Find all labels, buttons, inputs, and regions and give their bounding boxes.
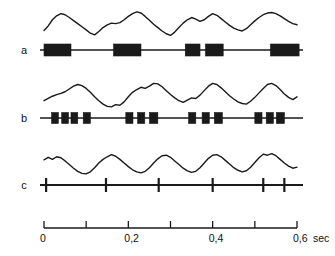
- event-burst-bar: [114, 44, 141, 56]
- axis-tick-label: 0,2: [124, 232, 139, 244]
- axis-tick-label: 0,6: [293, 232, 308, 244]
- row-label-b: b: [16, 112, 32, 124]
- event-square: [126, 113, 133, 124]
- time-axis: [44, 221, 297, 228]
- event-burst-bar: [270, 44, 299, 56]
- event-square: [149, 113, 157, 124]
- event-burst-bar: [44, 44, 71, 56]
- event-square: [202, 113, 209, 124]
- event-square: [276, 113, 284, 124]
- row-label-a: a: [16, 44, 32, 56]
- axis-tick-label: 0: [40, 232, 46, 244]
- event-square: [255, 113, 262, 124]
- row-label-c: c: [16, 179, 32, 191]
- waveform-trace-a: [44, 12, 297, 36]
- waveform-trace-c: [44, 154, 297, 174]
- event-burst-bar: [205, 44, 223, 56]
- axis-unit-label: sec: [313, 232, 329, 244]
- panel-b: [40, 83, 303, 123]
- panel-c: [40, 154, 303, 192]
- panel-a: [40, 12, 303, 56]
- axis-tick-label: 0,4: [209, 232, 224, 244]
- figure-panel: a b c 00,20,40,6sec: [0, 0, 335, 256]
- event-square: [71, 113, 78, 124]
- event-square: [52, 113, 59, 124]
- event-square: [189, 113, 196, 124]
- event-square: [83, 113, 90, 124]
- event-square: [138, 113, 145, 124]
- event-burst-bar: [185, 44, 200, 56]
- event-square: [214, 113, 222, 124]
- event-square: [266, 113, 273, 124]
- waveform-figure-svg: [0, 0, 335, 256]
- event-square: [62, 113, 69, 124]
- waveform-trace-b: [44, 83, 297, 107]
